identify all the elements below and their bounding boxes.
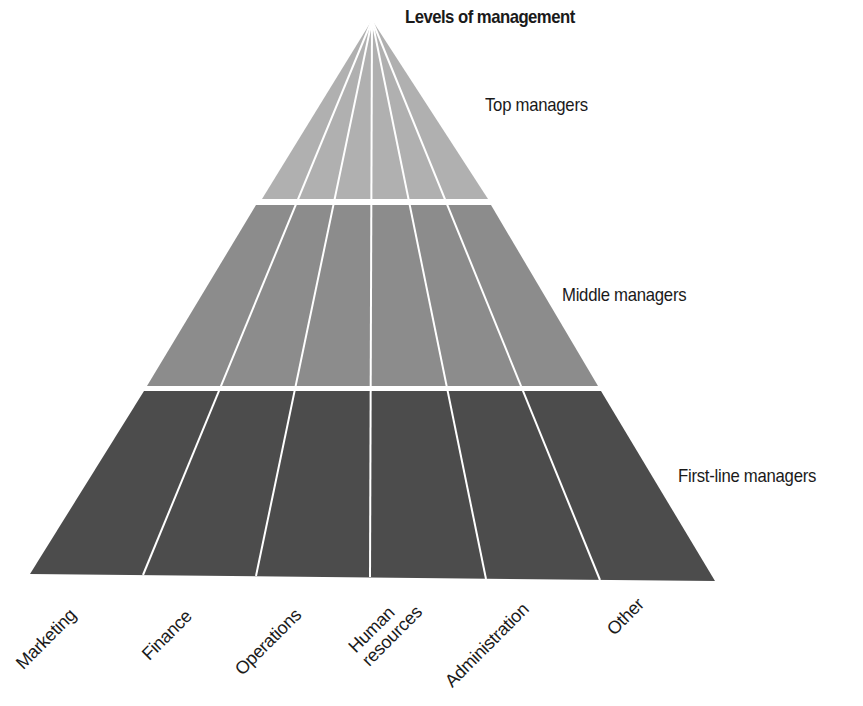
diagram-title: Levels of management — [405, 6, 575, 28]
pyramid-graphic — [0, 0, 863, 706]
tier-middle — [147, 205, 598, 386]
tier-bottom — [30, 391, 715, 581]
level-label-top: Top managers — [485, 94, 588, 116]
level-label-middle: Middle managers — [562, 284, 686, 306]
management-pyramid-diagram: Levels of management Top managers Middle… — [0, 0, 863, 706]
level-label-first-line: First-line managers — [678, 465, 816, 487]
tier-top — [262, 20, 488, 199]
tier-gap-upper — [0, 199, 863, 205]
tier-gap-lower — [0, 386, 863, 391]
